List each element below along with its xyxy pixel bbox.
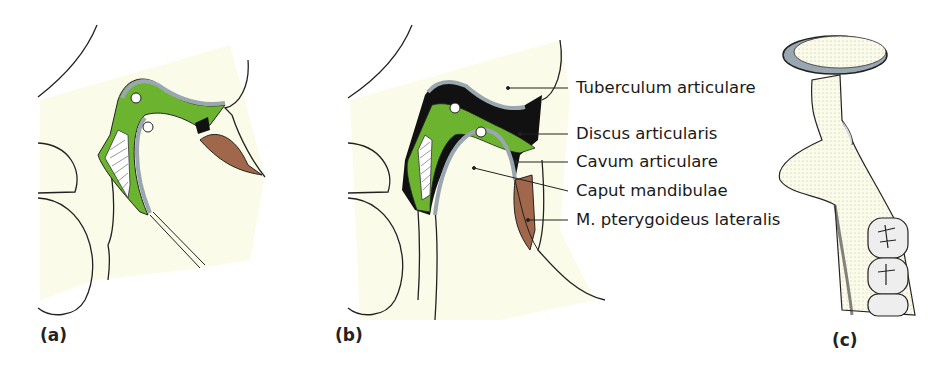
mandibular-condyle-illustration <box>770 0 942 374</box>
tmj-closed-mouth-diagram <box>0 0 320 374</box>
panel-c: (c) <box>770 0 942 374</box>
tmj-open-mouth-diagram <box>320 0 620 374</box>
callout-discus-articularis: Discus articularis <box>576 124 717 143</box>
callout-tuberculum-articulare: Tuberculum articulare <box>576 78 756 97</box>
panel-label-b: (b) <box>335 325 363 345</box>
panel-a: (a) <box>0 0 320 374</box>
panel-b: (b) <box>320 0 620 374</box>
panel-label-c: (c) <box>832 330 858 350</box>
callout-caput-mandibulae: Caput mandibulae <box>576 181 728 200</box>
callout-m-pterygoideus-lateralis: M. pterygoideus lateralis <box>576 210 780 229</box>
panel-label-a: (a) <box>40 325 67 345</box>
callout-cavum-articulare: Cavum articulare <box>576 152 718 171</box>
